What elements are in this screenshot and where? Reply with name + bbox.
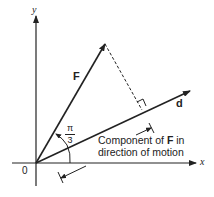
force-vector [36,44,105,163]
projection-line [105,44,142,110]
origin-label: 0 [22,166,28,176]
caption-line2: direction of motion [98,146,184,158]
force-label: F [73,71,80,82]
y-axis-label: y [32,5,36,15]
x-axis-label: x [200,157,204,167]
angle-numerator: π [65,124,75,133]
angle-denominator: 3 [65,136,75,145]
displacement-label: d [176,98,183,109]
component-tick-upper [149,123,154,133]
caption-text: Component of [98,134,167,146]
component-caption: Component of F in direction of motion [98,134,184,158]
caption-text-in: in [173,134,184,146]
angle-label: π 3 [65,124,75,145]
component-arrow-lower [61,166,86,178]
